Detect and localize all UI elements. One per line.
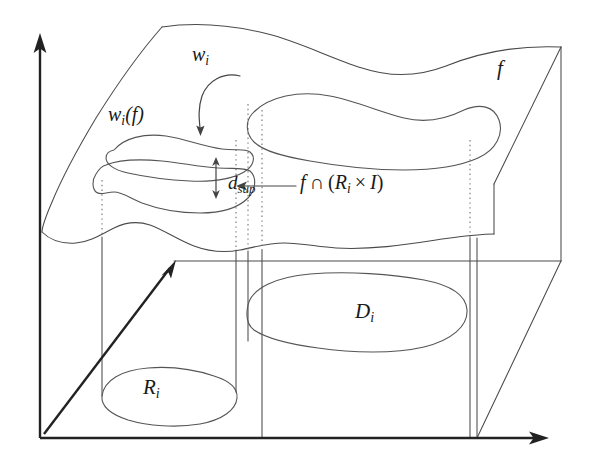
formula-lhs: f <box>300 171 306 193</box>
base-plane-right-edge <box>477 261 561 438</box>
label-w-i-subscript: i <box>205 53 209 68</box>
label-w-i-of-f-paren-open: ( <box>125 103 132 125</box>
formula-set: R <box>335 171 347 193</box>
formula-paren-close: ) <box>377 171 384 193</box>
label-w-i-of-f-base: w <box>108 103 121 125</box>
formula-interval: I <box>370 171 377 193</box>
label-d-sup-base: d <box>228 172 238 193</box>
label-d-i: Di <box>355 301 374 324</box>
label-f: f <box>497 58 503 79</box>
slab-walls-group <box>248 238 477 438</box>
label-d-sup: dsup <box>228 173 255 196</box>
label-f-base: f <box>497 56 503 80</box>
diagram-canvas <box>0 0 592 464</box>
label-w-i-of-f-paren-close: ) <box>137 103 144 125</box>
base-plane-group <box>174 47 561 438</box>
label-w-i: wi <box>192 44 209 67</box>
d-sup-measure-group <box>212 157 220 199</box>
ri-base-blob <box>102 367 237 426</box>
formula-paren-open: ( <box>328 171 335 193</box>
figure-root: wi wi(f) dsup f f∩(Ri×I) Di Ri <box>0 0 592 464</box>
box-top-right-slant <box>494 47 561 184</box>
label-intersection-formula: f∩(Ri×I) <box>300 172 383 195</box>
surface-f-group <box>42 25 561 252</box>
label-d-i-base: D <box>355 299 370 323</box>
label-r-i-subscript: i <box>156 385 160 401</box>
formula-times: × <box>351 171 370 193</box>
surface-f-front-boundary <box>42 223 494 252</box>
label-d-sup-subscript: sup <box>238 181 256 196</box>
surface-f-left-edge <box>42 27 162 232</box>
projection-lines-group <box>102 104 470 251</box>
label-r-i-base: R <box>143 375 156 399</box>
upper-intersection-blob <box>247 94 500 170</box>
label-w-i-of-f: wi(f) <box>108 104 144 127</box>
label-w-i-base: w <box>192 43 205 65</box>
wi-pointer-curve <box>199 75 240 128</box>
wi-pointer-group <box>196 75 240 136</box>
upper-intersection-blob-group <box>247 94 500 170</box>
label-r-i: Ri <box>143 377 160 400</box>
formula-operator: ∩ <box>306 171 328 193</box>
label-d-i-subscript: i <box>370 309 374 325</box>
